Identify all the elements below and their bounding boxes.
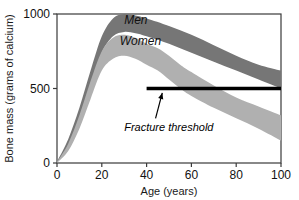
x-tick-label-60: 60: [185, 168, 199, 182]
x-tick-label-40: 40: [140, 168, 154, 182]
y-axis-title: Bone mass (grams of calcium): [3, 14, 15, 163]
series-label-women: Women: [120, 34, 162, 48]
x-tick-label-20: 20: [95, 168, 109, 182]
fracture-threshold-label: Fracture threshold: [124, 121, 214, 133]
x-axis-title: Age (years): [141, 185, 198, 197]
x-tick-label-100: 100: [271, 168, 291, 182]
x-tick-label-0: 0: [54, 168, 61, 182]
y-tick-label-500: 500: [30, 82, 50, 96]
y-tick-label-0: 0: [43, 156, 50, 170]
x-tick-label-80: 80: [230, 168, 244, 182]
y-tick-label-1000: 1000: [23, 7, 50, 21]
series-label-men: Men: [124, 13, 148, 27]
bone-mass-vs-age-chart: Men Women Fracture threshold 02040608010…: [0, 0, 299, 200]
